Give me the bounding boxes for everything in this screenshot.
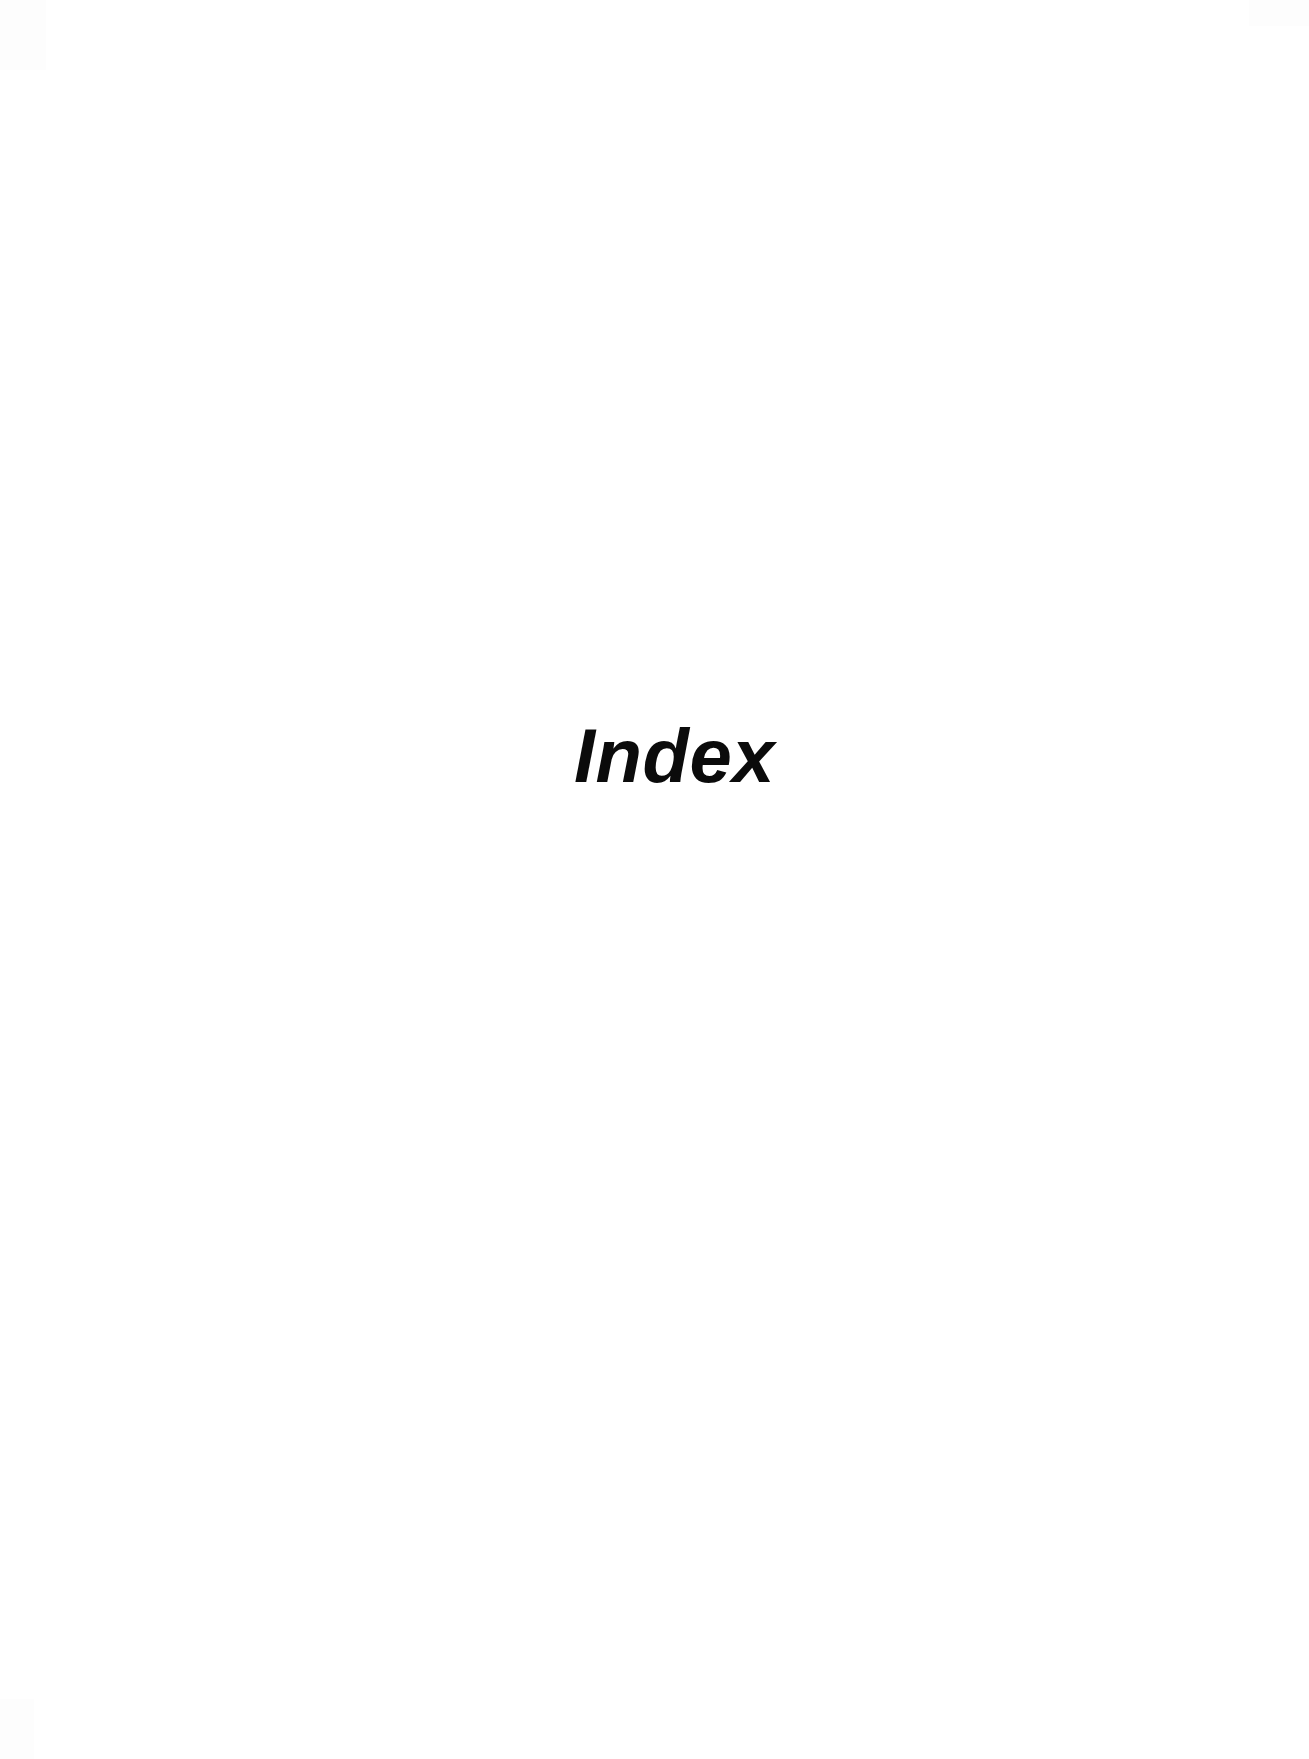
scan-artifact-top-right <box>1249 0 1309 26</box>
scan-artifact-top-left <box>0 0 46 70</box>
section-divider-heading-block: Index <box>0 718 1309 794</box>
scanned-page: Index <box>0 0 1309 1759</box>
scan-artifact-bottom-left <box>0 1699 34 1759</box>
page-title: Index <box>574 718 775 794</box>
